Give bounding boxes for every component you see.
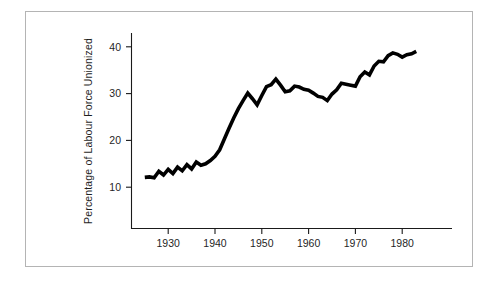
y-tick-label-20: 20 [109,134,121,146]
x-tick-label-1950: 1950 [250,237,274,249]
y-axis-ticks [126,47,132,187]
y-tick-label-40: 40 [109,41,121,53]
data-series-line [145,51,416,177]
chart-figure: 10 20 30 40 1930 1940 1950 1960 1970 198… [0,0,498,284]
x-tick-label-1980: 1980 [391,237,415,249]
y-tick-label-10: 10 [109,181,121,193]
plot-area: 10 20 30 40 1930 1940 1950 1960 1970 198… [0,0,498,284]
y-axis-title: Percentage of Labour Force Unionized [82,38,94,224]
x-tick-label-1940: 1940 [203,237,227,249]
chart-canvas: 10 20 30 40 1930 1940 1950 1960 1970 198… [0,0,498,284]
x-tick-label-1960: 1960 [297,237,321,249]
x-tick-label-1930: 1930 [157,237,181,249]
x-tick-label-1970: 1970 [344,237,368,249]
y-tick-label-30: 30 [109,87,121,99]
x-axis-ticks [168,229,402,235]
